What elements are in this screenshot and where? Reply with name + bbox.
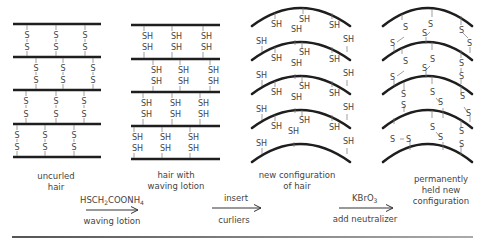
svg-text:SH: SH — [256, 71, 267, 80]
svg-text:S: S — [438, 133, 443, 142]
svg-text:S: S — [82, 31, 87, 40]
svg-text:SH: SH — [343, 103, 354, 112]
svg-text:SH: SH — [291, 59, 302, 68]
svg-text:S: S — [23, 97, 28, 106]
svg-text:SH: SH — [271, 88, 282, 97]
svg-text:S: S — [33, 76, 38, 85]
svg-text:SH: SH — [170, 99, 181, 108]
svg-text:S: S — [428, 20, 433, 29]
formula-part: COONH — [108, 195, 140, 205]
svg-text:S: S — [459, 127, 464, 136]
svg-text:SH: SH — [151, 77, 162, 86]
svg-text:S: S — [390, 135, 395, 144]
svg-text:S: S — [403, 57, 408, 66]
svg-text:SH: SH — [141, 99, 152, 108]
svg-text:SH: SH — [142, 43, 153, 52]
svg-text:S: S — [53, 97, 58, 106]
svg-text:SH: SH — [151, 66, 162, 75]
caption-line: new configuration — [252, 170, 342, 181]
svg-text:S: S — [422, 64, 427, 73]
svg-text:S: S — [467, 39, 472, 48]
svg-text:SH: SH — [299, 15, 310, 24]
panel-uncurled-hair: SS SS SS SS SS SS SS SS SS SS SS SS — [13, 24, 101, 157]
svg-text:S: S — [403, 23, 408, 32]
caption-line: held new — [399, 185, 479, 196]
svg-text:S: S — [460, 92, 465, 101]
svg-text:SH: SH — [132, 144, 143, 153]
svg-text:S: S — [390, 73, 395, 82]
svg-text:S: S — [23, 110, 28, 119]
svg-text:S: S — [60, 64, 65, 73]
svg-text:SH: SH — [271, 20, 282, 29]
step3-reagent: KBrO3 — [352, 193, 377, 206]
svg-text:SH: SH — [343, 69, 354, 78]
svg-text:S: S — [60, 76, 65, 85]
svg-text:SH: SH — [178, 77, 189, 86]
svg-text:S: S — [33, 64, 38, 73]
svg-text:S: S — [406, 135, 411, 144]
svg-text:SH: SH — [256, 105, 267, 114]
caption-new-configuration: new configuration of hair — [252, 170, 342, 192]
svg-text:S: S — [390, 39, 395, 48]
svg-text:S: S — [459, 26, 464, 35]
svg-text:SH: SH — [201, 32, 212, 41]
caption-line: of hair — [252, 181, 342, 192]
svg-text:SH: SH — [256, 139, 267, 148]
svg-text:SH: SH — [208, 77, 219, 86]
caption-line: hair with — [136, 170, 216, 181]
svg-text:SH: SH — [188, 144, 199, 153]
svg-text:S: S — [14, 131, 19, 140]
step-text: waving lotion — [80, 216, 144, 227]
svg-text:S: S — [53, 31, 58, 40]
svg-text:SH: SH — [201, 43, 212, 52]
svg-text:SH: SH — [291, 93, 302, 102]
svg-text:S: S — [82, 43, 87, 52]
svg-text:SH: SH — [271, 54, 282, 63]
svg-text:S: S — [53, 43, 58, 52]
caption-line: configuration — [399, 196, 479, 207]
formula-subscript: 4 — [140, 199, 144, 206]
svg-text:S: S — [401, 90, 406, 99]
svg-text:S: S — [430, 55, 435, 64]
caption-line: uncurled — [26, 171, 86, 182]
svg-text:S: S — [459, 72, 464, 81]
svg-text:S: S — [42, 131, 47, 140]
panel-permanent-configuration: SS SS SS SS SS SS SS SS SS SS SS SS — [383, 8, 472, 162]
svg-text:SH: SH — [198, 110, 209, 119]
svg-text:SH: SH — [329, 89, 340, 98]
svg-text:S: S — [53, 110, 58, 119]
step2-above: insert — [216, 193, 256, 204]
caption-line: hair — [26, 182, 86, 193]
svg-text:S: S — [81, 110, 86, 119]
step2-below: curliers — [214, 215, 254, 226]
svg-text:S: S — [459, 140, 464, 149]
svg-text:SH: SH — [198, 99, 209, 108]
caption-permanent-configuration: permanently held new configuration — [399, 174, 479, 207]
caption-uncurled-hair: uncurled hair — [26, 171, 86, 193]
caption-line: permanently — [399, 174, 479, 185]
svg-text:S: S — [90, 76, 95, 85]
svg-text:S: S — [24, 43, 29, 52]
panel-new-configuration: SHSHSH SHSH SH SHSHSH SHSH SH SHSHSH SHS… — [252, 8, 354, 162]
svg-text:S: S — [24, 31, 29, 40]
step-text: curliers — [214, 215, 254, 226]
svg-text:SH: SH — [329, 21, 340, 30]
svg-text:S: S — [438, 98, 443, 107]
svg-text:SH: SH — [132, 133, 143, 142]
svg-text:SH: SH — [299, 48, 310, 57]
step1-reagent: HSCH2COONH4 — [80, 195, 144, 208]
svg-text:S: S — [71, 143, 76, 152]
svg-text:SH: SH — [171, 43, 182, 52]
svg-text:SH: SH — [170, 110, 181, 119]
svg-text:SH: SH — [208, 66, 219, 75]
svg-text:SH: SH — [171, 32, 182, 41]
svg-text:S: S — [430, 123, 435, 132]
formula-part: HSCH — [80, 195, 104, 205]
formula-part: KBrO — [352, 193, 374, 203]
svg-text:S: S — [90, 64, 95, 73]
bottom-separator — [12, 236, 473, 238]
svg-text:SH: SH — [160, 144, 171, 153]
svg-text:S: S — [422, 29, 427, 38]
svg-text:SH: SH — [271, 122, 282, 131]
svg-text:SH: SH — [141, 110, 152, 119]
